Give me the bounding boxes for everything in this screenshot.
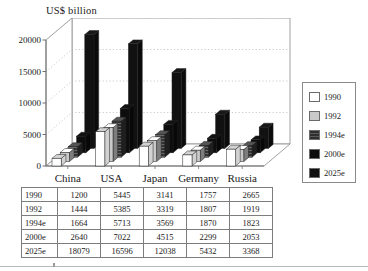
bar-1990-Germany xyxy=(183,151,197,166)
table-row-header: 2000e xyxy=(22,230,58,244)
table-cell: 3368 xyxy=(230,244,273,258)
table-cell: 16596 xyxy=(101,244,144,258)
legend-swatch-1994e xyxy=(309,130,320,140)
table-cell: 3569 xyxy=(144,216,187,230)
legend-swatch-1990 xyxy=(309,92,320,102)
legend-item-1990[interactable]: 1990 xyxy=(309,87,355,106)
bar-1990-Russia xyxy=(226,145,240,166)
table-cell: 1870 xyxy=(187,216,230,230)
table-row: 199214445385331918071919 xyxy=(22,202,273,216)
legend-label-2025e: 2025e xyxy=(324,168,345,178)
table-cell: 12038 xyxy=(144,244,187,258)
table-cell: 5385 xyxy=(101,202,144,216)
table-row: 2000e26407022451522992053 xyxy=(22,230,273,244)
bar-chart-plot-3d: 05000100001500020000ChinaUSAJapanGermany… xyxy=(14,18,302,188)
table-cell: 1757 xyxy=(187,188,230,202)
table-cell: 2665 xyxy=(230,188,273,202)
table-cell: 5713 xyxy=(101,216,144,230)
x-axis-label-Russia: Russia xyxy=(228,172,257,184)
table-cell: 1200 xyxy=(58,188,101,202)
chart-legend: 199019921994e2000e2025e xyxy=(302,82,356,183)
footer-divider xyxy=(0,266,368,267)
legend-item-2000e[interactable]: 2000e xyxy=(309,144,355,163)
y-tick-label-20000: 20000 xyxy=(19,35,42,45)
y-tick-label-5000: 5000 xyxy=(23,130,42,140)
table-row: 2025e18079165961203854323368 xyxy=(22,244,273,258)
y-tick-label-15000: 15000 xyxy=(19,67,42,77)
legend-item-1992[interactable]: 1992 xyxy=(309,106,355,125)
table-cell: 5445 xyxy=(101,188,144,202)
footer-tick-mark xyxy=(53,263,55,267)
table-cell: 2053 xyxy=(230,230,273,244)
table-row-header: 1992 xyxy=(22,202,58,216)
table-row: 1994e16645713356918701823 xyxy=(22,216,273,230)
y-tick-label-0: 0 xyxy=(37,161,42,171)
legend-item-2025e[interactable]: 2025e xyxy=(309,163,355,182)
table-cell: 1919 xyxy=(230,202,273,216)
x-axis-label-China: China xyxy=(55,172,81,184)
table-cell: 1444 xyxy=(58,202,101,216)
legend-label-1994e: 1994e xyxy=(324,130,345,140)
data-table: 1990120054453141175726651992144453853319… xyxy=(21,187,273,258)
table-cell: 4515 xyxy=(144,230,187,244)
bar-1990-USA xyxy=(96,128,110,166)
legend-label-1990: 1990 xyxy=(324,92,341,102)
table-cell: 1807 xyxy=(187,202,230,216)
table-cell: 2299 xyxy=(187,230,230,244)
table-row-header: 1990 xyxy=(22,188,58,202)
bar-1990-Japan xyxy=(139,142,153,166)
chart-title: US$ billion xyxy=(46,5,97,16)
table-cell: 3141 xyxy=(144,188,187,202)
y-tick-label-10000: 10000 xyxy=(19,98,42,108)
table-cell: 18079 xyxy=(58,244,101,258)
legend-swatch-1992 xyxy=(309,111,320,121)
table-cell: 1823 xyxy=(230,216,273,230)
table-cell: 5432 xyxy=(187,244,230,258)
table-cell: 7022 xyxy=(101,230,144,244)
table-row-header: 1994e xyxy=(22,216,58,230)
x-axis-label-Japan: Japan xyxy=(142,172,168,184)
x-axis-label-USA: USA xyxy=(100,172,122,184)
table-row-header: 2025e xyxy=(22,244,58,258)
legend-label-1992: 1992 xyxy=(324,111,341,121)
table-cell: 3319 xyxy=(144,202,187,216)
x-axis-label-Germany: Germany xyxy=(178,172,219,184)
table-cell: 2640 xyxy=(58,230,101,244)
legend-swatch-2000e xyxy=(309,149,320,159)
legend-swatch-2025e xyxy=(309,168,320,178)
table-row: 199012005445314117572665 xyxy=(22,188,273,202)
legend-item-1994e[interactable]: 1994e xyxy=(309,125,355,144)
legend-label-2000e: 2000e xyxy=(324,149,345,159)
table-cell: 1664 xyxy=(58,216,101,230)
